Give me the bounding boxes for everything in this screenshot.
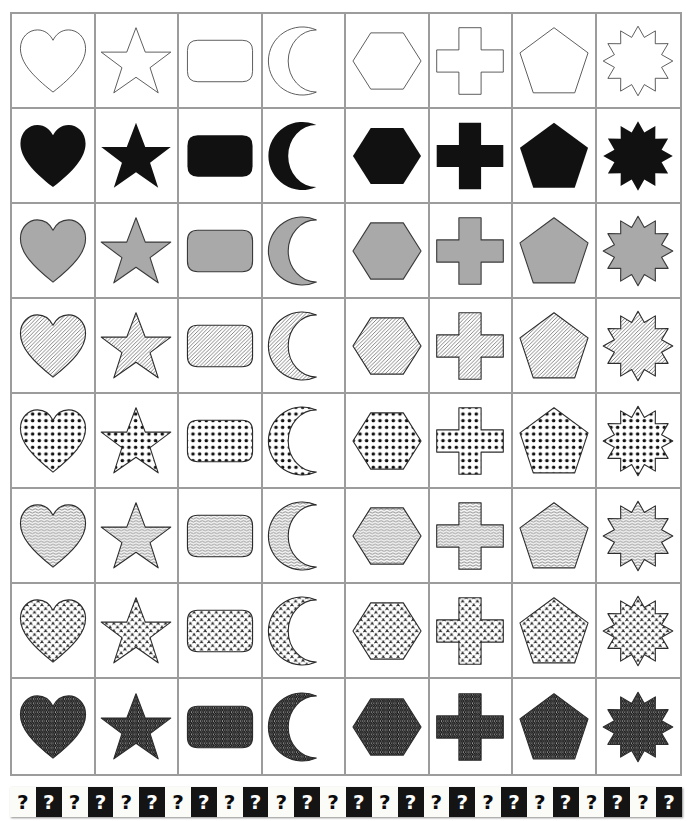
rounded-rectangle-icon — [183, 309, 257, 383]
rounded-rectangle-icon — [183, 24, 257, 98]
grid-cell-rounded-rectangle-herringbone-chevron — [179, 679, 263, 774]
twelve-point-burst-icon — [601, 499, 675, 573]
question-mark-box: ? — [398, 787, 424, 817]
grid-cell-hexagon-diagonal-hatch — [346, 299, 430, 394]
grid-cell-star-polka-dots — [96, 394, 180, 489]
grid-cell-crescent-moon-solid-gray — [263, 204, 347, 299]
grid-cell-pentagon-floral-clover — [513, 584, 597, 679]
question-mark-strip: ?????????????????????????? — [10, 787, 682, 817]
cross-icon — [433, 214, 507, 288]
grid-cell-cross-herringbone-chevron — [430, 679, 514, 774]
pentagon-icon — [517, 594, 591, 668]
grid-cell-crescent-moon-polka-dots — [263, 394, 347, 489]
grid-cell-rounded-rectangle-outline — [179, 14, 263, 109]
star-icon — [99, 214, 173, 288]
twelve-point-burst-icon — [601, 309, 675, 383]
grid-cell-cross-solid-gray — [430, 204, 514, 299]
crescent-moon-icon — [266, 119, 340, 193]
grid-cell-crescent-moon-herringbone-chevron — [263, 679, 347, 774]
crescent-moon-icon — [266, 24, 340, 98]
grid-cell-twelve-point-burst-herringbone-chevron — [597, 679, 681, 774]
grid-cell-rounded-rectangle-diagonal-hatch — [179, 299, 263, 394]
grid-cell-pentagon-wavy-lines — [513, 489, 597, 584]
grid-cell-crescent-moon-outline — [263, 14, 347, 109]
shape-grid — [10, 12, 682, 776]
question-mark-box: ? — [139, 787, 165, 817]
question-mark-box: ? — [165, 787, 191, 817]
heart-icon — [16, 309, 90, 383]
hexagon-icon — [350, 24, 424, 98]
grid-cell-twelve-point-burst-wavy-lines — [597, 489, 681, 584]
grid-cell-cross-floral-clover — [430, 584, 514, 679]
grid-cell-pentagon-solid-black — [513, 109, 597, 204]
twelve-point-burst-icon — [601, 404, 675, 478]
heart-icon — [16, 404, 90, 478]
grid-cell-hexagon-solid-black — [346, 109, 430, 204]
heart-icon — [16, 24, 90, 98]
rounded-rectangle-icon — [183, 119, 257, 193]
hexagon-icon — [350, 594, 424, 668]
grid-cell-pentagon-polka-dots — [513, 394, 597, 489]
hexagon-icon — [350, 404, 424, 478]
question-mark-box: ? — [630, 787, 656, 817]
question-mark-box: ? — [372, 787, 398, 817]
grid-cell-crescent-moon-wavy-lines — [263, 489, 347, 584]
grid-cell-heart-wavy-lines — [12, 489, 96, 584]
cross-icon — [433, 690, 507, 764]
star-icon — [99, 24, 173, 98]
twelve-point-burst-icon — [601, 214, 675, 288]
question-mark-box: ? — [501, 787, 527, 817]
question-mark-box: ? — [268, 787, 294, 817]
cross-icon — [433, 404, 507, 478]
hexagon-icon — [350, 690, 424, 764]
pentagon-icon — [517, 404, 591, 478]
grid-cell-pentagon-solid-gray — [513, 204, 597, 299]
star-icon — [99, 594, 173, 668]
grid-cell-hexagon-outline — [346, 14, 430, 109]
grid-cell-heart-diagonal-hatch — [12, 299, 96, 394]
grid-cell-twelve-point-burst-outline — [597, 14, 681, 109]
grid-cell-cross-diagonal-hatch — [430, 299, 514, 394]
grid-cell-star-herringbone-chevron — [96, 679, 180, 774]
question-mark-box: ? — [294, 787, 320, 817]
crescent-moon-icon — [266, 499, 340, 573]
star-icon — [99, 499, 173, 573]
twelve-point-burst-icon — [601, 594, 675, 668]
pentagon-icon — [517, 499, 591, 573]
rounded-rectangle-icon — [183, 499, 257, 573]
rounded-rectangle-icon — [183, 690, 257, 764]
grid-cell-hexagon-solid-gray — [346, 204, 430, 299]
pentagon-icon — [517, 119, 591, 193]
pentagon-icon — [517, 690, 591, 764]
cross-icon — [433, 594, 507, 668]
cross-icon — [433, 309, 507, 383]
star-icon — [99, 404, 173, 478]
grid-cell-hexagon-herringbone-chevron — [346, 679, 430, 774]
question-mark-box: ? — [553, 787, 579, 817]
question-mark-box: ? — [36, 787, 62, 817]
heart-icon — [16, 690, 90, 764]
grid-cell-heart-solid-gray — [12, 204, 96, 299]
grid-cell-cross-outline — [430, 14, 514, 109]
heart-icon — [16, 594, 90, 668]
grid-cell-rounded-rectangle-wavy-lines — [179, 489, 263, 584]
grid-cell-heart-solid-black — [12, 109, 96, 204]
hexagon-icon — [350, 499, 424, 573]
pentagon-icon — [517, 309, 591, 383]
grid-cell-twelve-point-burst-polka-dots — [597, 394, 681, 489]
grid-cell-rounded-rectangle-floral-clover — [179, 584, 263, 679]
grid-cell-hexagon-polka-dots — [346, 394, 430, 489]
grid-cell-star-floral-clover — [96, 584, 180, 679]
grid-cell-heart-polka-dots — [12, 394, 96, 489]
grid-cell-hexagon-floral-clover — [346, 584, 430, 679]
crescent-moon-icon — [266, 214, 340, 288]
question-mark-box: ? — [656, 787, 682, 817]
hexagon-icon — [350, 119, 424, 193]
grid-cell-cross-wavy-lines — [430, 489, 514, 584]
question-mark-box: ? — [320, 787, 346, 817]
question-mark-box: ? — [579, 787, 605, 817]
hexagon-icon — [350, 309, 424, 383]
grid-cell-twelve-point-burst-diagonal-hatch — [597, 299, 681, 394]
grid-cell-star-diagonal-hatch — [96, 299, 180, 394]
grid-cell-cross-polka-dots — [430, 394, 514, 489]
